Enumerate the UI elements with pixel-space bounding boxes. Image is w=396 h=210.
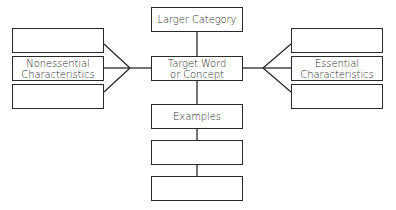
example-entry-box-1	[151, 140, 243, 165]
nonessential-label-line1: Nonessential	[26, 58, 89, 69]
example-entry-box-2	[151, 176, 243, 201]
examples-label: Examples	[173, 111, 221, 122]
examples-box: Examples	[151, 104, 243, 129]
target-word-line1: Target Word	[168, 58, 226, 69]
essential-entry-box-1	[291, 28, 383, 53]
nonessential-label-line2: Characteristics	[21, 69, 94, 80]
essential-characteristics-box: Essential Characteristics	[291, 56, 383, 81]
essential-label-line2: Characteristics	[300, 69, 373, 80]
essential-label-line1: Essential	[315, 58, 359, 69]
essential-entry-box-2	[291, 84, 383, 109]
target-word-line2: or Concept	[170, 69, 224, 80]
nonessential-entry-box-2	[12, 84, 104, 109]
target-word-box: Target Word or Concept	[151, 56, 243, 81]
larger-category-label: Larger Category	[158, 14, 237, 25]
nonessential-characteristics-box: Nonessential Characteristics	[12, 56, 104, 81]
larger-category-box: Larger Category	[151, 7, 243, 32]
nonessential-entry-box-1	[12, 28, 104, 53]
